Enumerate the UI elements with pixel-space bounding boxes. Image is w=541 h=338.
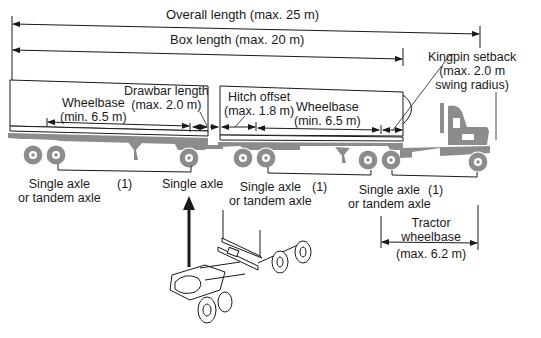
- kingpin-setback-line2: (max. 2.0 m: [428, 64, 516, 78]
- tractor-drive-axle-label: Single axle or tandem axle: [348, 183, 431, 211]
- axle-label-line1: Single axle: [229, 180, 312, 194]
- overall-length-label: Overall length (max. 25 m): [166, 8, 319, 22]
- front-trailer-rear-axle-label: Single axle or tandem axle: [229, 180, 312, 208]
- front-wheelbase-line1: Wheelbase: [294, 100, 361, 114]
- overall-length-dimension: [12, 16, 480, 80]
- hitch-offset-line2: (max. 1.8 m): [224, 104, 294, 118]
- front-wheelbase-label: Wheelbase (min. 6.5 m): [294, 100, 361, 128]
- rear-trailer-wheels: [23, 145, 199, 168]
- axle-label-line1: Single axle: [18, 177, 101, 191]
- swing-radius-arc: [403, 95, 412, 124]
- dolly-axle-label: Single axle: [162, 177, 223, 191]
- front-trailer-wheels: [233, 148, 401, 170]
- drawbar-length-line2: (max. 2.0 m): [124, 98, 209, 112]
- drawbar-length-label: Drawbar length (max. 2.0 m): [124, 84, 209, 112]
- tractor-wheelbase-line1: Tractor: [396, 216, 466, 230]
- rear-trailer-note: (1): [117, 177, 132, 191]
- hitch-offset-label: Hitch offset (max. 1.8 m): [224, 90, 294, 118]
- rear-wheelbase-line1: Wheelbase: [60, 96, 127, 110]
- box-length-label: Box length (max. 20 m): [170, 33, 304, 47]
- drawbar-length-line1: Drawbar length: [124, 84, 209, 98]
- dolly-callout-arrow: [183, 196, 195, 267]
- axle-label-line2: or tandem axle: [18, 191, 101, 205]
- rear-trailer-rear-axle-label: Single axle or tandem axle: [18, 177, 101, 205]
- axle-label-line2: or tandem axle: [348, 197, 431, 211]
- rear-wheelbase-label: Wheelbase (min. 6.5 m): [60, 96, 127, 124]
- tractor: [400, 103, 490, 172]
- front-wheelbase-line2: (min. 6.5 m): [294, 114, 361, 128]
- front-trailer-note: (1): [312, 180, 327, 194]
- dolly-detail-sketch: [170, 210, 311, 323]
- kingpin-setback-line3: swing radius): [428, 78, 516, 92]
- tractor-wheelbase-line2: wheelbase: [396, 230, 466, 244]
- axle-label-line1: Single axle: [348, 183, 431, 197]
- tractor-wheelbase-line3: (max. 6.2 m): [396, 247, 466, 261]
- rear-wheelbase-line2: (min. 6.5 m): [60, 110, 127, 124]
- kingpin-setback-label: Kingpin setback (max. 2.0 m swing radius…: [428, 50, 516, 92]
- tractor-note: (1): [428, 183, 443, 197]
- hitch-offset-line1: Hitch offset: [224, 90, 294, 104]
- box-length-dimension: [13, 48, 403, 66]
- kingpin-setback-line1: Kingpin setback: [428, 50, 516, 64]
- tractor-wheelbase-label: Tractor wheelbase (max. 6.2 m): [396, 216, 466, 261]
- axle-label-line2: or tandem axle: [229, 194, 312, 208]
